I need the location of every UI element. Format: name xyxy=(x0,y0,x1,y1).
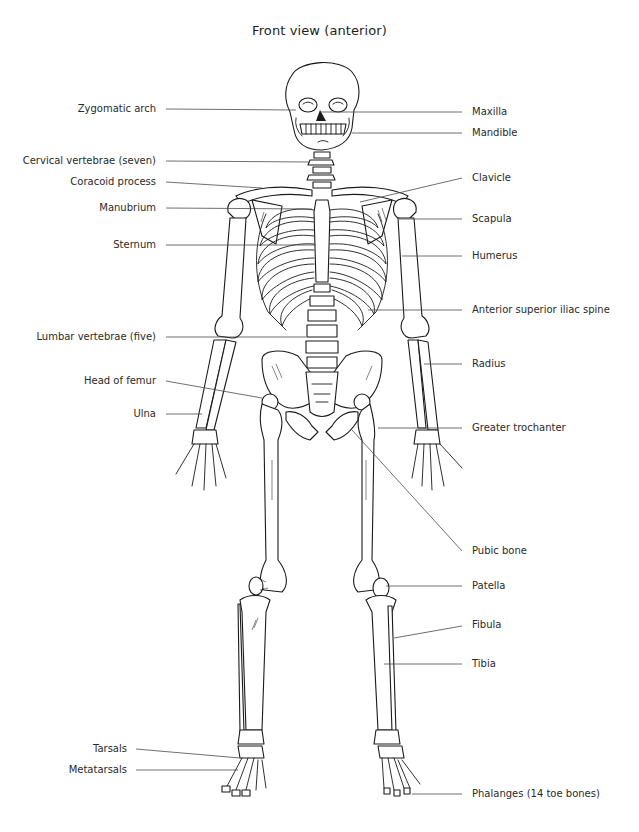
lumbar-spine xyxy=(306,284,338,368)
feet xyxy=(222,730,420,796)
skeleton-illustration xyxy=(0,0,639,832)
lower-legs xyxy=(238,596,396,733)
hands xyxy=(176,430,462,490)
skull xyxy=(286,63,359,150)
femurs xyxy=(260,394,379,592)
cervical-spine xyxy=(307,152,335,188)
